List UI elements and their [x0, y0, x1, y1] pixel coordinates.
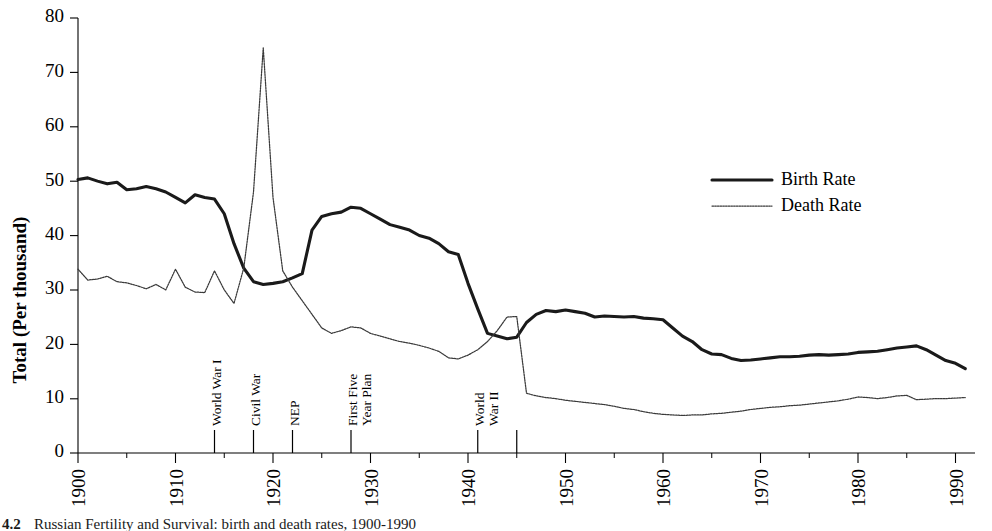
x-tick-label-1940: 1940	[458, 469, 479, 507]
x-tick-label-1930: 1930	[361, 469, 382, 507]
y-tick-label-50: 50	[45, 169, 64, 190]
figure-caption: 4.2 Russian Fertility and Survival: birt…	[2, 516, 416, 531]
x-tick-label-1920: 1920	[263, 469, 284, 507]
y-tick-label-80: 80	[45, 5, 64, 26]
legend: Birth Rate Death Rate	[712, 169, 861, 215]
event-label-nep: NEP	[287, 400, 302, 426]
caption-number: 4.2	[2, 516, 21, 531]
y-tick-label-40: 40	[45, 223, 64, 244]
x-tick-label-1950: 1950	[556, 469, 577, 507]
x-axis-tick-labels: 1900191019201930194019501960197019801990	[68, 469, 967, 507]
figure-russian-vital-rates: Total (Per thousand) 80 70 60 50 40 30 2…	[0, 0, 992, 531]
y-tick-label-20: 20	[45, 332, 64, 353]
event-annotations: World War ICivil WarNEPFirst FiveYear Pl…	[209, 359, 517, 453]
x-tick-label-1900: 1900	[68, 469, 89, 507]
y-tick-label-70: 70	[45, 60, 64, 81]
x-tick-label-1980: 1980	[848, 469, 869, 507]
y-axis-title: Total (Per thousand)	[9, 217, 31, 384]
y-tick-label-0: 0	[55, 440, 65, 461]
event-label-world-war-ii: World	[472, 392, 487, 426]
event-label-world-war-i: World War I	[209, 359, 224, 426]
x-tick-label-1910: 1910	[166, 469, 187, 507]
y-axis-ticks: 80 70 60 50 40 30 20 10 0	[45, 5, 78, 461]
legend-label-death-rate: Death Rate	[781, 195, 861, 215]
x-tick-label-1990: 1990	[946, 469, 967, 507]
y-tick-label-60: 60	[45, 114, 64, 135]
y-tick-label-30: 30	[45, 277, 64, 298]
x-tick-label-1970: 1970	[751, 469, 772, 507]
legend-label-birth-rate: Birth Rate	[781, 169, 856, 189]
y-axis-title-text: Total (Per thousand)	[9, 217, 31, 384]
chart-svg: Total (Per thousand) 80 70 60 50 40 30 2…	[0, 0, 992, 531]
caption-text: Russian Fertility and Survival: birth an…	[34, 516, 416, 531]
event-label-civil-war: Civil War	[248, 373, 263, 426]
x-axis-ticks	[78, 453, 956, 463]
event-label-first-five-year-plan: Year Plan	[359, 373, 374, 426]
event-label-first-five-year-plan: First Five	[345, 374, 360, 426]
x-tick-label-1960: 1960	[653, 469, 674, 507]
y-tick-label-10: 10	[45, 386, 64, 407]
event-label-world-war-ii: War II	[486, 391, 501, 426]
